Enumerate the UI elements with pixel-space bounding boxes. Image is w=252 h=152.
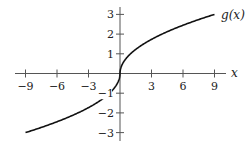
function-graph: −9−6−3369 −3−2−1123 x g(x)	[0, 0, 252, 152]
x-tick-label: −9	[17, 80, 33, 93]
y-tick-label: 3	[107, 8, 114, 21]
y-tick-label: 1	[107, 48, 114, 61]
y-tick-label: −1	[98, 87, 114, 100]
x-tick-label: 3	[148, 80, 155, 93]
y-tick-label: −2	[98, 107, 114, 120]
x-tick-label: 6	[180, 80, 187, 93]
y-tick-label: 2	[107, 28, 114, 41]
function-label: g(x)	[221, 8, 245, 22]
x-tick-label: 9	[211, 80, 218, 93]
x-axis-label: x	[231, 66, 238, 80]
x-tick-label: −3	[80, 80, 96, 93]
y-tick-label: −3	[98, 127, 114, 140]
x-tick-label: −6	[49, 80, 65, 93]
